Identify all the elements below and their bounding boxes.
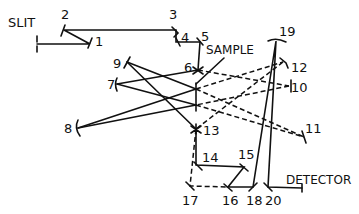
label-7: 7 [107, 77, 115, 92]
label-4: 4 [181, 30, 189, 45]
label-15: 15 [238, 147, 255, 162]
label-9: 9 [113, 56, 121, 71]
label-11: 11 [305, 121, 322, 136]
label-5: 5 [201, 29, 209, 44]
slit-label: SLIT [8, 15, 35, 30]
sample-label: SAMPLE [206, 43, 254, 57]
solid-rays-sample [78, 62, 198, 129]
label-12: 12 [291, 60, 308, 75]
label-10: 10 [291, 80, 308, 95]
label-6: 6 [184, 60, 192, 75]
optical-path-diagram: SLIT SAMPLE [0, 0, 359, 214]
detector-label: DETECTOR [286, 173, 351, 187]
label-3: 3 [169, 7, 177, 22]
label-17: 17 [182, 193, 199, 208]
label-13: 13 [203, 123, 220, 138]
mirror-3-icon [172, 27, 178, 37]
label-18: 18 [246, 193, 263, 208]
label-16: 16 [222, 193, 239, 208]
label-8: 8 [64, 121, 72, 136]
label-1: 1 [95, 34, 103, 49]
label-20: 20 [265, 193, 282, 208]
label-14: 14 [202, 150, 219, 165]
mirror-19-icon [268, 39, 286, 42]
label-19: 19 [279, 24, 296, 39]
label-2: 2 [61, 7, 69, 22]
sample [196, 58, 224, 111]
